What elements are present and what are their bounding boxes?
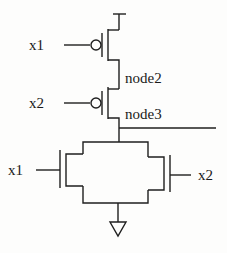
label-x1-top: x1 bbox=[29, 37, 44, 53]
inversion-bubble-icon bbox=[91, 40, 101, 50]
label-node2: node2 bbox=[125, 70, 162, 86]
inversion-bubble-icon bbox=[91, 98, 101, 108]
vdd-supply-icon bbox=[113, 14, 126, 30]
label-node3: node3 bbox=[125, 106, 162, 122]
circuit-diagram: x1 x2 node2 node3 x1 x2 bbox=[0, 0, 227, 253]
label-x2-bottom: x2 bbox=[198, 167, 213, 183]
ground-icon bbox=[110, 203, 126, 236]
nmos-parallel-network bbox=[36, 142, 191, 203]
pmos-transistor-x2 bbox=[64, 87, 119, 142]
schematic: x1 x2 node2 node3 x1 x2 bbox=[0, 0, 227, 253]
pmos-transistor-x1 bbox=[64, 29, 119, 89]
nmos-transistor-x2 bbox=[148, 155, 191, 192]
label-x2-top: x2 bbox=[29, 95, 44, 111]
nmos-transistor-x1 bbox=[36, 150, 83, 188]
label-x1-bottom: x1 bbox=[8, 162, 23, 178]
